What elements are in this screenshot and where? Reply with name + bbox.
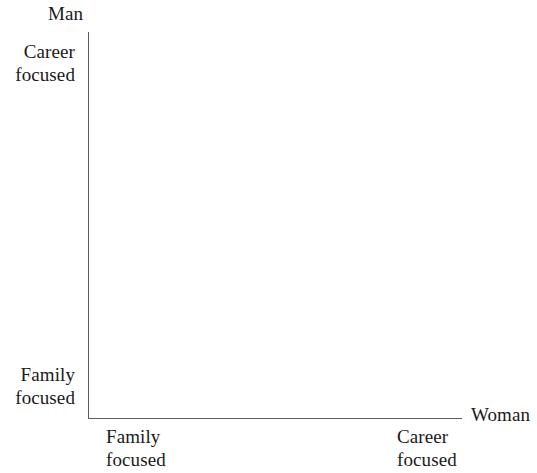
x-axis-low-label-line1: Family xyxy=(106,425,166,448)
x-axis-low-label: Family focused xyxy=(106,425,166,471)
y-axis-line xyxy=(88,32,89,419)
y-axis-high-label: Career focused xyxy=(0,40,75,86)
y-axis-title-text: Man xyxy=(48,2,83,25)
x-axis-line xyxy=(88,418,462,419)
x-axis-high-label-line1: Career xyxy=(397,425,457,448)
y-axis-low-label-line2: focused xyxy=(0,386,75,409)
x-axis-high-label-line2: focused xyxy=(397,448,457,471)
y-axis-title: Man xyxy=(48,2,83,25)
y-axis-low-label-line1: Family xyxy=(0,363,75,386)
x-axis-title-text: Woman xyxy=(471,403,530,426)
y-axis-low-label: Family focused xyxy=(0,363,75,409)
y-axis-high-label-line1: Career xyxy=(0,40,75,63)
x-axis-title: Woman xyxy=(471,403,530,426)
x-axis-high-label: Career focused xyxy=(397,425,457,471)
y-axis-high-label-line2: focused xyxy=(0,63,75,86)
x-axis-low-label-line2: focused xyxy=(106,448,166,471)
chart-canvas: Man Career focused Family focused Woman … xyxy=(0,0,537,473)
